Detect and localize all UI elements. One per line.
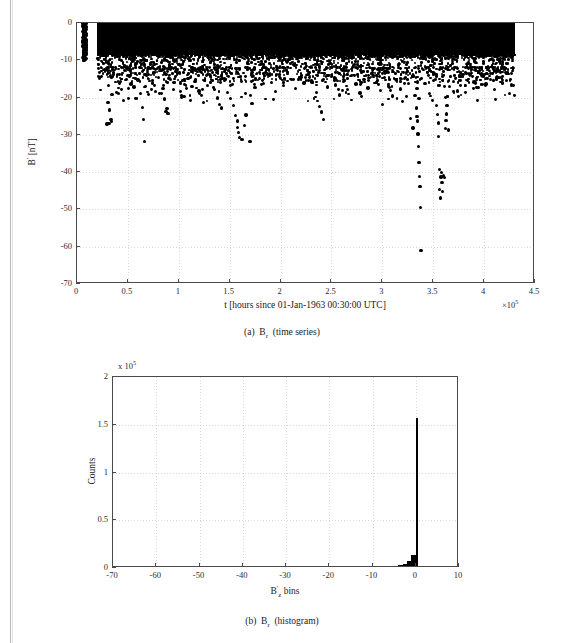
scatter-point bbox=[415, 115, 418, 118]
scatter-point bbox=[416, 132, 419, 135]
scatter-point bbox=[314, 59, 317, 62]
scatter-point bbox=[283, 74, 286, 77]
y-tick-label: -30 bbox=[50, 129, 72, 139]
x-tick-mark bbox=[381, 279, 382, 283]
scatter-point bbox=[322, 78, 325, 81]
scatter-point bbox=[286, 71, 289, 74]
scatter-point bbox=[189, 94, 192, 97]
scatter-point bbox=[326, 67, 329, 70]
scatter-point bbox=[435, 68, 438, 71]
gridline-vertical bbox=[243, 377, 244, 566]
scatter-point bbox=[143, 140, 146, 143]
scatter-point bbox=[411, 54, 414, 57]
scatter-point bbox=[182, 62, 185, 65]
scatter-point bbox=[83, 59, 86, 62]
x-tick-label: 0 bbox=[413, 570, 417, 580]
gridline-vertical bbox=[179, 23, 180, 282]
scatter-point bbox=[220, 64, 223, 67]
scatter-point bbox=[244, 75, 247, 78]
scatter-point bbox=[105, 122, 108, 125]
scatter-point bbox=[418, 175, 421, 178]
scatter-point bbox=[174, 75, 177, 78]
scatter-point bbox=[451, 62, 454, 65]
scatter-point bbox=[317, 54, 320, 57]
scatter-point bbox=[484, 82, 487, 85]
scatter-point bbox=[213, 88, 216, 91]
scatter-point bbox=[171, 63, 174, 66]
figure-panel-a: 00.511.522.533.544.50-10-20-30-40-50-60-… bbox=[0, 0, 564, 350]
scatter-point bbox=[467, 54, 470, 57]
x-tick-mark bbox=[372, 563, 373, 567]
scatter-point bbox=[513, 94, 516, 97]
scatter-point bbox=[510, 83, 513, 86]
scatter-point bbox=[297, 60, 300, 63]
scatter-point bbox=[422, 57, 425, 60]
x-tick-label: -50 bbox=[193, 570, 204, 580]
scatter-point bbox=[415, 87, 418, 90]
scatter-point bbox=[315, 84, 318, 87]
gridline-horizontal bbox=[77, 247, 533, 248]
scatter-point bbox=[418, 70, 421, 73]
gridline-vertical bbox=[200, 377, 201, 566]
scatter-point bbox=[120, 88, 123, 91]
scatter-point bbox=[233, 57, 236, 60]
gridline-horizontal bbox=[77, 172, 533, 173]
scatter-point bbox=[197, 89, 200, 92]
scatter-point bbox=[82, 27, 85, 30]
caption-panel-b: (b) Br (histogram) bbox=[0, 616, 564, 628]
scatter-point bbox=[314, 77, 317, 80]
scatter-point bbox=[353, 74, 356, 77]
scatter-point bbox=[250, 74, 253, 77]
scatter-point bbox=[262, 82, 265, 85]
scatter-point bbox=[371, 73, 374, 76]
scatter-point bbox=[423, 82, 426, 85]
scatter-point bbox=[467, 67, 470, 70]
scatter-point bbox=[445, 104, 448, 107]
y-tick-mark bbox=[76, 171, 80, 172]
x-tick-mark bbox=[328, 563, 329, 567]
scatter-point bbox=[391, 94, 394, 97]
x-tick-label: 2 bbox=[277, 286, 281, 296]
gridline-vertical bbox=[373, 377, 374, 566]
scatter-point bbox=[489, 72, 492, 75]
x-tick-label: 1.5 bbox=[223, 286, 234, 296]
scatter-point bbox=[264, 98, 267, 101]
scatter-point bbox=[234, 114, 237, 117]
scatter-point bbox=[443, 176, 446, 179]
scatter-point bbox=[147, 66, 150, 69]
scatter-point bbox=[381, 72, 384, 75]
scatter-point bbox=[108, 108, 111, 111]
scatter-point bbox=[179, 82, 182, 85]
scatter-point bbox=[186, 77, 189, 80]
scatter-point bbox=[409, 117, 412, 120]
scatter-point bbox=[141, 106, 144, 109]
scatter-point bbox=[285, 60, 288, 63]
scatter-point bbox=[143, 58, 146, 61]
scatter-point bbox=[444, 119, 447, 122]
scatter-point bbox=[233, 53, 236, 56]
scatter-point bbox=[449, 75, 452, 78]
scatter-point bbox=[265, 69, 268, 72]
scatter-point bbox=[240, 55, 243, 58]
scatter-point bbox=[258, 71, 261, 74]
scatter-point bbox=[229, 84, 232, 87]
y-axis-multiplier-b: x 105 bbox=[118, 360, 136, 371]
scatter-point bbox=[399, 80, 402, 83]
scatter-point bbox=[193, 80, 196, 83]
scatter-point bbox=[271, 78, 274, 81]
scatter-point bbox=[117, 92, 120, 95]
scatter-point bbox=[229, 97, 232, 100]
scatter-point bbox=[163, 78, 166, 81]
x-tick-label: -60 bbox=[150, 570, 161, 580]
scatter-point bbox=[509, 78, 512, 81]
scatter-point bbox=[387, 67, 390, 70]
scatter-point bbox=[378, 75, 381, 78]
figure-panel-b: -70-60-50-40-30-20-1001000.511.52 x 105 … bbox=[0, 358, 564, 643]
scatter-point bbox=[389, 89, 392, 92]
scatter-point bbox=[357, 79, 360, 82]
x-tick-label: -40 bbox=[236, 570, 247, 580]
scatter-point bbox=[151, 81, 154, 84]
scatter-point bbox=[154, 90, 157, 93]
scatter-point bbox=[273, 70, 276, 73]
scatter-point bbox=[287, 58, 290, 61]
